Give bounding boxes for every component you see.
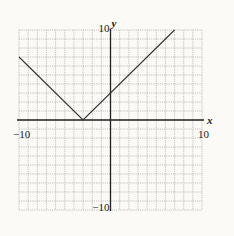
y-min-tick-label: −10 <box>92 201 110 213</box>
x-min-tick-label: −10 <box>13 128 31 140</box>
y-max-tick-label: 10 <box>99 22 111 34</box>
coordinate-plane: x y −10 10 10 −10 <box>0 0 234 236</box>
y-axis-label: y <box>110 17 117 29</box>
x-max-tick-label: 10 <box>198 128 210 140</box>
x-axis-label: x <box>206 114 213 126</box>
